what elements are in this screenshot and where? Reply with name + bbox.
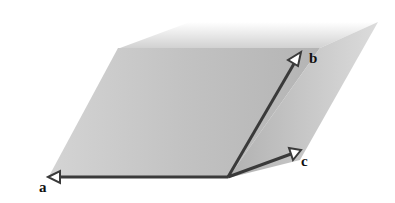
- vector-diagram: [0, 0, 395, 203]
- label-b: b: [309, 51, 317, 66]
- label-a: a: [39, 180, 47, 195]
- label-c: c: [301, 154, 308, 169]
